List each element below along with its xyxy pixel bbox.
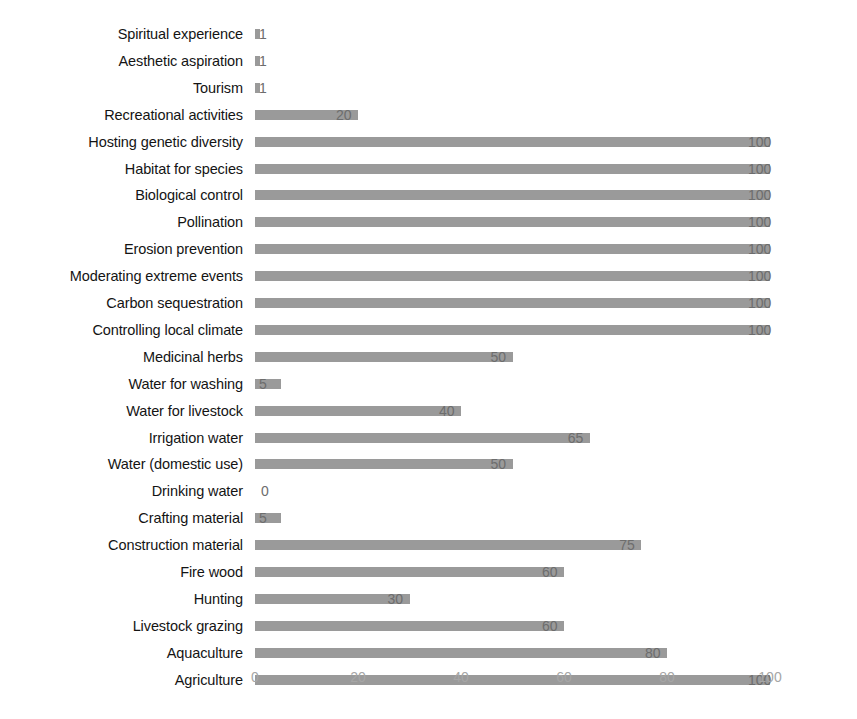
bar-row: Drinking water0	[0, 480, 857, 502]
bar-row: Biological control100	[0, 184, 857, 206]
bar	[255, 459, 513, 469]
category-label: Spiritual experience	[0, 23, 243, 45]
bar	[255, 648, 667, 658]
category-label: Agriculture	[0, 669, 243, 691]
bar	[255, 271, 770, 281]
bar	[255, 352, 513, 362]
bar-row: Carbon sequestration100	[0, 292, 857, 314]
x-tick-label: 40	[453, 666, 469, 688]
category-label: Crafting material	[0, 507, 243, 529]
bar-value-label: 100	[748, 131, 771, 153]
bar-row: Water (domestic use)50	[0, 453, 857, 475]
bar-value-label: 30	[388, 588, 404, 610]
bar-row: Livestock grazing60	[0, 615, 857, 637]
x-tick-label: 0	[251, 666, 259, 688]
category-label: Biological control	[0, 184, 243, 206]
x-tick-label: 60	[556, 666, 572, 688]
category-label: Habitat for species	[0, 158, 243, 180]
bar-row: Fire wood60	[0, 561, 857, 583]
bar-row: Hosting genetic diversity100	[0, 131, 857, 153]
category-label: Water for livestock	[0, 400, 243, 422]
category-label: Pollination	[0, 211, 243, 233]
bar-value-label: 0	[261, 480, 269, 502]
bar	[255, 567, 564, 577]
category-label: Drinking water	[0, 480, 243, 502]
bar-row: Hunting30	[0, 588, 857, 610]
bar-value-label: 5	[259, 507, 267, 529]
bar	[255, 298, 770, 308]
bar-value-label: 1	[259, 23, 267, 45]
category-label: Aesthetic aspiration	[0, 50, 243, 72]
category-label: Water (domestic use)	[0, 453, 243, 475]
bar-value-label: 60	[542, 561, 558, 583]
bar-value-label: 100	[748, 319, 771, 341]
bar-value-label: 40	[439, 400, 455, 422]
bar-value-label: 50	[491, 453, 507, 475]
bar-value-label: 65	[568, 427, 584, 449]
x-tick-label: 80	[659, 666, 675, 688]
category-label: Hosting genetic diversity	[0, 131, 243, 153]
category-label: Fire wood	[0, 561, 243, 583]
category-label: Medicinal herbs	[0, 346, 243, 368]
category-label: Water for washing	[0, 373, 243, 395]
bar	[255, 540, 641, 550]
bar-row: Irrigation water65	[0, 427, 857, 449]
bar-row: Tourism1	[0, 77, 857, 99]
bar-value-label: 80	[645, 642, 661, 664]
x-tick-label: 100	[758, 666, 781, 688]
bar-row: Water for washing5	[0, 373, 857, 395]
category-label: Erosion prevention	[0, 238, 243, 260]
bar-row: Spiritual experience1	[0, 23, 857, 45]
bar-value-label: 100	[748, 158, 771, 180]
bar	[255, 217, 770, 227]
bar	[255, 406, 461, 416]
category-label: Recreational activities	[0, 104, 243, 126]
bar-value-label: 60	[542, 615, 558, 637]
bar	[255, 594, 410, 604]
bar-value-label: 100	[748, 211, 771, 233]
category-label: Livestock grazing	[0, 615, 243, 637]
bar-value-label: 100	[748, 292, 771, 314]
bar-row: Recreational activities20	[0, 104, 857, 126]
category-label: Construction material	[0, 534, 243, 556]
category-label: Carbon sequestration	[0, 292, 243, 314]
category-label: Controlling local climate	[0, 319, 243, 341]
bar-value-label: 75	[619, 534, 635, 556]
bar-value-label: 100	[748, 238, 771, 260]
bar-row: Crafting material5	[0, 507, 857, 529]
bar-value-label: 1	[259, 50, 267, 72]
bar	[255, 433, 590, 443]
bar-row: Construction material75	[0, 534, 857, 556]
bar-row: Aquaculture80	[0, 642, 857, 664]
bar-row: Water for livestock40	[0, 400, 857, 422]
bar	[255, 164, 770, 174]
category-label: Moderating extreme events	[0, 265, 243, 287]
bar-row: Controlling local climate100	[0, 319, 857, 341]
bar	[255, 137, 770, 147]
plot-area: Spiritual experience1Aesthetic aspiratio…	[0, 0, 857, 719]
bar-row: Pollination100	[0, 211, 857, 233]
bar-row: Moderating extreme events100	[0, 265, 857, 287]
bar-chart: Spiritual experience1Aesthetic aspiratio…	[0, 0, 857, 719]
bar-value-label: 100	[748, 184, 771, 206]
bar-row: Erosion prevention100	[0, 238, 857, 260]
bar-row: Habitat for species100	[0, 158, 857, 180]
bar	[255, 621, 564, 631]
bar-value-label: 50	[491, 346, 507, 368]
bar	[255, 325, 770, 335]
bar	[255, 244, 770, 254]
bar-value-label: 20	[336, 104, 352, 126]
x-axis: 020406080100	[255, 666, 770, 692]
bar	[255, 190, 770, 200]
x-tick-label: 20	[350, 666, 366, 688]
category-label: Tourism	[0, 77, 243, 99]
category-label: Aquaculture	[0, 642, 243, 664]
bar-value-label: 100	[748, 265, 771, 287]
category-label: Irrigation water	[0, 427, 243, 449]
bar-value-label: 1	[259, 77, 267, 99]
bar-row: Medicinal herbs50	[0, 346, 857, 368]
bar-row: Aesthetic aspiration1	[0, 50, 857, 72]
bar-value-label: 5	[259, 373, 267, 395]
category-label: Hunting	[0, 588, 243, 610]
